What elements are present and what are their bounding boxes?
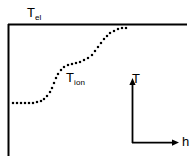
ion-curve-dot — [55, 77, 57, 79]
ion-curve-dot — [97, 46, 99, 48]
ion-curve-dot — [113, 30, 115, 32]
ion-curve-dot — [91, 54, 93, 56]
ion-curve-dot — [117, 28, 119, 30]
ion-curve-dot — [125, 27, 127, 29]
plot-canvas — [0, 0, 194, 158]
ion-curve-dot — [51, 87, 53, 89]
ion-temperature-dotted-curve — [12, 27, 127, 104]
ion-curve-dot — [53, 82, 55, 84]
ion-curve-dot — [103, 38, 105, 40]
inset-axis-label-t: T — [132, 70, 140, 86]
ion-curve-dot — [100, 42, 102, 44]
ion-curve-dot — [43, 98, 45, 100]
ion-curve-dot — [46, 95, 48, 97]
ion-temperature-label: Tion — [66, 69, 85, 87]
ion-curve-dot — [94, 50, 96, 52]
electron-temperature-label: Tel — [27, 4, 42, 22]
inset-axes — [129, 78, 179, 146]
ion-curve-dot — [60, 69, 62, 71]
ion-curve-dot — [36, 101, 38, 103]
ion-curve-dot — [87, 57, 89, 59]
ion-curve-dot — [28, 102, 30, 104]
ion-curve-dot — [75, 62, 77, 64]
inset-axis-label-t-text: T — [132, 71, 140, 86]
ion-curve-dot — [71, 63, 73, 65]
ion-curve-dot — [79, 61, 81, 63]
ion-curve-dot — [49, 91, 51, 93]
ion-curve-dot — [63, 66, 65, 68]
inset-axis-label-h: h — [182, 133, 189, 149]
inset-axis-label-h-text: h — [182, 134, 189, 149]
ion-curve-dot — [121, 27, 123, 29]
ion-curve-dot — [40, 100, 42, 102]
ion-temperature-label-subscript: ion — [74, 78, 85, 87]
ion-curve-dot — [57, 73, 59, 75]
ion-temperature-label-base: T — [66, 70, 74, 85]
electron-temperature-label-subscript: el — [35, 13, 42, 22]
plot-frame — [8, 24, 187, 156]
ion-curve-dot — [32, 102, 34, 104]
ion-curve-dot — [109, 32, 111, 34]
ion-curve-dot — [16, 102, 18, 104]
ion-curve-dot — [20, 102, 22, 104]
ion-curve-dot — [24, 102, 26, 104]
schematic-temperature-plot: Tel Tion T h — [0, 0, 194, 158]
ion-curve-dot — [12, 102, 14, 104]
ion-curve-dot — [106, 35, 108, 37]
inset-horizontal-arrowhead — [172, 140, 179, 146]
electron-temperature-label-base: T — [27, 5, 35, 20]
ion-curve-dot — [83, 59, 85, 61]
ion-curve-dot — [67, 64, 69, 66]
